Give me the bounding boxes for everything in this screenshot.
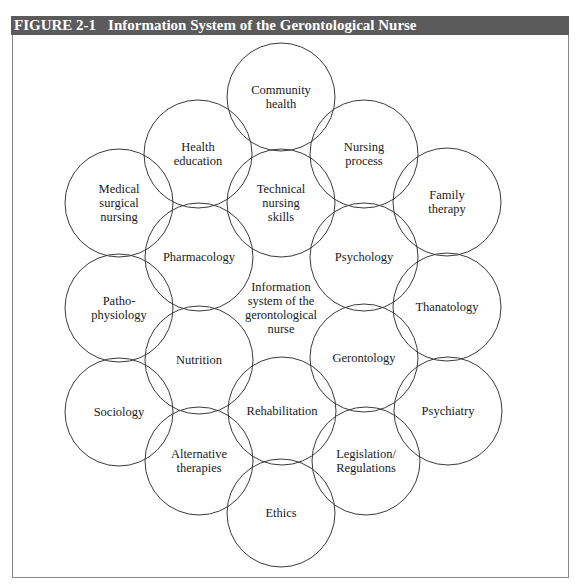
psychiatry-label: Psychiatry [422, 404, 475, 418]
thanatology-label: Thanatology [415, 300, 478, 314]
center-label: Information system of the gerontological… [245, 280, 317, 336]
psychology-label: Psychology [335, 250, 393, 264]
rehabilitation-label: Rehabilitation [247, 404, 318, 418]
sociology-label: Sociology [94, 405, 145, 419]
legislation-regulations-label: Legislation/ Regulations [336, 447, 396, 475]
community-health-label: Community health [251, 83, 311, 111]
gerontology-label: Gerontology [332, 351, 395, 365]
pathophysiology-label: Patho- physiology [91, 294, 147, 322]
health-education-label: Health education [174, 140, 223, 168]
pharmacology-label: Pharmacology [163, 250, 235, 264]
technical-nursing-skills-label: Technical nursing skills [257, 182, 305, 224]
alternative-therapies-label: Alternative therapies [171, 447, 227, 475]
ethics-label: Ethics [265, 506, 296, 520]
family-therapy-label: Family therapy [428, 188, 465, 216]
medical-surgical-nursing-label: Medical surgical nursing [99, 182, 140, 224]
nutrition-label: Nutrition [176, 353, 222, 367]
nursing-process-label: Nursing process [344, 140, 384, 168]
